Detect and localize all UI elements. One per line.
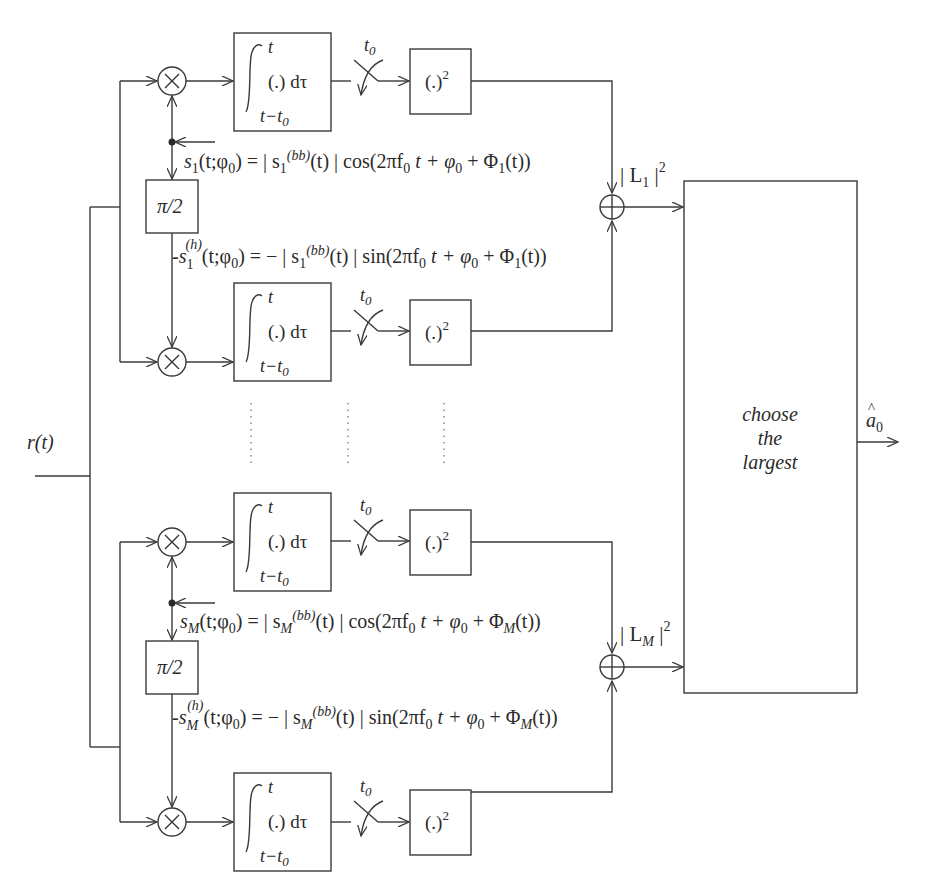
multiplier-i-m: [158, 528, 186, 556]
svg-text:the: the: [758, 427, 783, 449]
svg-text:π/2: π/2: [157, 656, 183, 678]
svg-text:largest: largest: [743, 451, 798, 474]
reference-cos-1: s1(t;φ0) = | s1(bb)(t) | cos(2πf0 t + φ0…: [184, 148, 531, 176]
input-signal: r(t): [27, 431, 90, 476]
multiplier-q-m: [158, 808, 186, 836]
energy-label-1: | L1 |2: [620, 160, 666, 190]
reference-sin-m: ‐sM(h)(t;φ0) = − | sM(bb)(t) | sin(2πf0 …: [172, 698, 558, 733]
svg-text:(.) dτ: (.) dτ: [268, 71, 308, 93]
svg-text:a0: a0: [866, 409, 883, 435]
noncoherent-receiver-diagram: r(t) t (.) dτ t−t0 t0: [0, 0, 928, 873]
sampler-i-m: t0: [331, 495, 409, 555]
svg-text:t0: t0: [360, 495, 372, 518]
multiplier-i-1: [158, 67, 186, 95]
decision-box: choose the largest: [684, 181, 857, 693]
reference-sin-1: ‐s1(h)(t;φ0) = − | s1(bb)(t) | sin(2πf0 …: [172, 237, 547, 272]
adder-m: [600, 655, 624, 679]
svg-text:π/2: π/2: [157, 195, 183, 217]
multiplier-q-1: [158, 348, 186, 376]
svg-text:t0: t0: [360, 285, 372, 308]
input-label: r(t): [27, 431, 54, 454]
reference-cos-m: sM(t;φ0) = | sM(bb)(t) | cos(2πf0 t + φ0…: [180, 608, 541, 636]
phase-shifter-1: π/2: [146, 180, 198, 233]
svg-text:t0: t0: [360, 776, 372, 799]
squarer-i-m: (.)2: [410, 510, 471, 575]
adder-1: [600, 195, 624, 219]
junction-dot: [169, 600, 176, 607]
integrator-i-1: t (.) dτ t−t0: [234, 33, 331, 131]
sampler-q-m: t0: [331, 776, 409, 836]
squarer-q-1: (.)2: [410, 300, 471, 365]
svg-text:choose: choose: [742, 403, 798, 425]
phase-shifter-m: π/2: [146, 641, 198, 694]
svg-text:(.) dτ: (.) dτ: [268, 321, 308, 343]
integrator-q-m: t (.) dτ t−t0: [234, 773, 331, 871]
integrator-i-m: t (.) dτ t−t0: [234, 493, 331, 591]
channel-1: t (.) dτ t−t0 t0 (.)2 π/2 s1(t;φ0) = |: [120, 33, 683, 381]
sampler-q-1: t0: [331, 285, 409, 345]
squarer-q-m: (.)2: [410, 790, 471, 855]
svg-text:t0: t0: [364, 35, 376, 58]
output-decision: ^ a0: [857, 400, 898, 442]
energy-label-m: | LM |2: [620, 619, 670, 649]
sampler-i-1: t0: [331, 35, 409, 95]
svg-text:(.) dτ: (.) dτ: [268, 811, 308, 833]
svg-text:(.) dτ: (.) dτ: [268, 531, 308, 553]
channel-m: t (.) dτ t−t0 t0 (.)2 π/2 sM(t;φ0) = | s…: [120, 493, 683, 871]
junction-dot: [169, 139, 176, 146]
integrator-q-1: t (.) dτ t−t0: [234, 283, 331, 381]
ellipsis-dots: [251, 403, 444, 468]
figure-caption-truncated: [90, 860, 850, 873]
squarer-i-1: (.)2: [410, 49, 471, 114]
